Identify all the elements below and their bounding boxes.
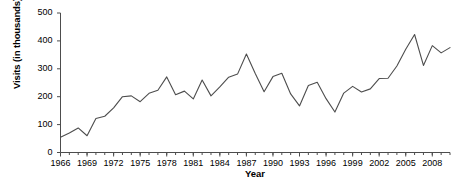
x-tick-label: 1975 bbox=[126, 158, 154, 168]
data-series-line bbox=[61, 34, 451, 137]
x-tick-label: 1981 bbox=[179, 158, 207, 168]
x-axis-major-ticks bbox=[61, 153, 433, 157]
x-tick-label: 2002 bbox=[365, 158, 393, 168]
x-tick-label: 1996 bbox=[312, 158, 340, 168]
y-tick-label: 100 bbox=[23, 119, 53, 129]
x-tick-label: 1993 bbox=[286, 158, 314, 168]
x-tick-label: 1987 bbox=[232, 158, 260, 168]
x-tick-label: 2005 bbox=[392, 158, 420, 168]
x-tick-label: 1999 bbox=[339, 158, 367, 168]
y-tick-label: 400 bbox=[23, 35, 53, 45]
x-tick-label: 1984 bbox=[206, 158, 234, 168]
x-tick-label: 1966 bbox=[47, 158, 75, 168]
y-tick-label: 0 bbox=[23, 147, 53, 157]
y-tick-label: 500 bbox=[23, 7, 53, 17]
x-tick-label: 2008 bbox=[418, 158, 446, 168]
x-tick-label: 1969 bbox=[73, 158, 101, 168]
y-tick-label: 300 bbox=[23, 63, 53, 73]
x-tick-label: 1978 bbox=[153, 158, 181, 168]
axes bbox=[61, 13, 451, 153]
x-tick-label: 1990 bbox=[259, 158, 287, 168]
y-axis-ticks bbox=[57, 13, 61, 153]
chart-figure: Visits (in thousands) 0100200300400500 1… bbox=[0, 0, 461, 186]
x-tick-label: 1972 bbox=[100, 158, 128, 168]
y-tick-label: 200 bbox=[23, 91, 53, 101]
x-axis-label: Year bbox=[60, 168, 450, 179]
